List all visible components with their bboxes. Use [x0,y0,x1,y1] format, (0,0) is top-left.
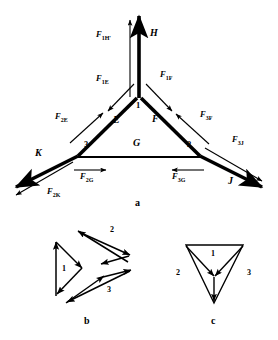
force-1F-label: F1F [160,70,172,81]
force-2G-label: F2G [80,172,93,183]
triangle-2-side-b [79,232,130,255]
polygon-label-2: 2 [176,269,180,277]
triangle-3-label: 3 [107,286,111,294]
force-2K-arrow [16,162,73,195]
force-1E-label: F1E [96,74,109,85]
force-3F-label: F3F [200,110,212,121]
triangle-1-group [56,242,82,296]
member-F-label: F [152,114,159,124]
member-J-label: J [228,176,233,186]
member-K-arrow [16,156,78,187]
node-2-label: 2 [187,140,191,149]
figure-canvas: F1H' H F1E F1F 1 F2E E F F3F 3 G 2 F3J K… [0,0,278,340]
panel-b-label: b [84,316,90,326]
member-K-label: K [35,148,42,158]
member-H-label: H [150,28,158,38]
triangle-1-side-b [56,242,82,268]
member-E-label: E [113,115,120,125]
force-3J-label: F3J [232,135,244,146]
force-3G-label: F3G [172,172,185,183]
force-1H-label: F1H' [96,30,111,41]
member-G-label: G [133,138,140,148]
node-1-label: 1 [136,101,140,110]
polygon-label-1: 1 [211,250,215,258]
triangle-2-group [78,231,130,264]
force-2K-label: F2K [47,187,60,198]
triangle-3-side-b [103,270,131,277]
panel-b-triangles [56,231,131,303]
triangle-1-side-c [57,268,82,294]
polygon-label-3: 3 [247,269,251,277]
triangle-3-side-c [67,271,130,302]
panel-c-label: c [211,316,215,326]
polygon-inner-left [186,246,214,276]
panel-a-label: a [135,198,140,208]
node-3-label: 3 [84,140,88,149]
triangle-2-label: 2 [110,226,114,234]
triangle-1-label: 1 [62,265,66,273]
diagram-svg [0,0,278,340]
force-2E-label: F2E [55,112,68,123]
